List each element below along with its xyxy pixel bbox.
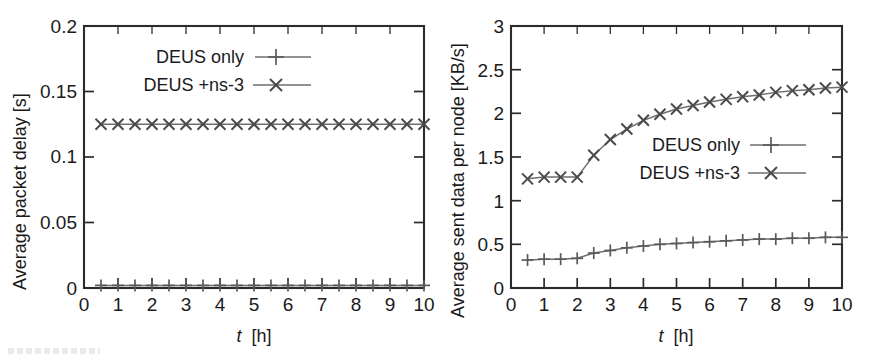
data-marker-plus-icon (704, 236, 716, 248)
left-x-tick-label-1: 1 (113, 294, 124, 315)
right-x-tick-label-8: 8 (771, 294, 782, 315)
series-deus-only (522, 231, 848, 266)
data-marker-plus-icon (180, 279, 192, 291)
right-x-tick-label-9: 9 (804, 294, 815, 315)
left-legend-label-1: DEUS +ns-3 (143, 75, 244, 95)
left-plot-frame (84, 26, 424, 288)
right-x-tick-label-3: 3 (605, 294, 616, 315)
data-marker-plus-icon (333, 279, 345, 291)
left-x-axis-title: t [h] (236, 326, 271, 346)
data-marker-plus-icon (522, 254, 534, 266)
data-marker-plus-icon (621, 242, 633, 254)
left-x-tick-label-6: 6 (283, 294, 294, 315)
right-y-tick-label-2: 1 (493, 191, 504, 212)
data-marker-plus-icon (248, 279, 260, 291)
data-marker-plus-icon (720, 235, 732, 247)
right-legend-label-0: DEUS only (652, 135, 740, 155)
data-marker-plus-icon (770, 233, 782, 245)
data-marker-plus-icon (299, 279, 311, 291)
data-marker-plus-icon (637, 240, 649, 252)
left-y-tick-label-4: 0.2 (51, 16, 77, 37)
right-legend-marker-plus-icon (763, 137, 779, 153)
data-marker-plus-icon (367, 279, 379, 291)
data-marker-plus-icon (786, 232, 798, 244)
data-marker-plus-icon (737, 234, 749, 246)
left-legend-marker-plus-icon (268, 49, 284, 65)
left-x-tickmarks (84, 26, 424, 288)
right-y-tick-label-3: 1.5 (478, 147, 504, 168)
series-deus-only (95, 279, 430, 291)
data-marker-cross-icon (688, 100, 699, 111)
data-marker-plus-icon (282, 279, 294, 291)
left-y-tick-label-0: 0 (66, 278, 77, 299)
data-marker-cross-icon (654, 109, 665, 120)
right-x-tick-label-0: 0 (506, 294, 517, 315)
data-marker-cross-icon (671, 103, 682, 114)
series-polyline (528, 237, 842, 260)
right-x-tick-label-4: 4 (638, 294, 649, 315)
right-legend: DEUS only DEUS +ns-3 (639, 135, 806, 183)
right-x-tick-label-2: 2 (572, 294, 583, 315)
left-x-tick-label-8: 8 (351, 294, 362, 315)
left-x-tick-label-4: 4 (215, 294, 226, 315)
data-marker-cross-icon (588, 150, 599, 161)
figure-two-panel-chart: Average packet delay [s] 0 0.05 0.1 0.15… (0, 0, 878, 361)
right-y-tick-label-6: 3 (493, 16, 504, 37)
data-marker-plus-icon (753, 233, 765, 245)
right-y-tick-label-5: 2.5 (478, 60, 504, 81)
data-marker-plus-icon (588, 247, 600, 259)
right-x-axis-title-symbol: t (658, 326, 664, 346)
data-marker-plus-icon (231, 279, 243, 291)
left-x-tick-label-9: 9 (385, 294, 396, 315)
data-marker-plus-icon (95, 279, 107, 291)
right-chart-svg: Average sent data per node [KB/s] 0 0.5 … (438, 0, 878, 361)
data-marker-plus-icon (163, 279, 175, 291)
left-legend-label-0: DEUS only (156, 47, 244, 67)
right-x-axis-title-unit: [h] (674, 326, 694, 346)
left-x-tick-label-3: 3 (181, 294, 192, 315)
left-y-tickmarks (84, 26, 424, 288)
left-x-axis-title-unit: [h] (252, 326, 272, 346)
data-marker-plus-icon (384, 279, 396, 291)
right-x-tick-label-6: 6 (704, 294, 715, 315)
left-x-tick-label-7: 7 (317, 294, 328, 315)
chart-panel-packet-delay: Average packet delay [s] 0 0.05 0.1 0.15… (0, 0, 440, 361)
right-x-tick-label-5: 5 (671, 294, 682, 315)
data-marker-plus-icon (265, 279, 277, 291)
scan-artifact (8, 348, 100, 354)
data-marker-plus-icon (803, 232, 815, 244)
data-marker-plus-icon (350, 279, 362, 291)
left-x-tick-label-5: 5 (249, 294, 260, 315)
right-x-axis-title: t [h] (658, 326, 693, 346)
right-y-tick-label-4: 2 (493, 103, 504, 124)
data-marker-plus-icon (671, 237, 683, 249)
data-marker-plus-icon (401, 279, 413, 291)
data-marker-plus-icon (112, 279, 124, 291)
data-marker-plus-icon (418, 279, 430, 291)
data-marker-cross-icon (638, 115, 649, 126)
data-marker-plus-icon (538, 253, 550, 265)
right-x-tick-label-10: 10 (831, 294, 852, 315)
data-marker-plus-icon (129, 279, 141, 291)
series-deus-ns-3 (96, 119, 430, 130)
data-marker-cross-icon (621, 124, 632, 135)
left-x-axis-title-symbol: t (236, 326, 242, 346)
data-marker-plus-icon (654, 238, 666, 250)
data-marker-plus-icon (316, 279, 328, 291)
left-y-tick-label-3: 0.15 (40, 81, 77, 102)
right-y-tick-label-1: 0.5 (478, 234, 504, 255)
right-y-axis-title: Average sent data per node [KB/s] (448, 43, 468, 318)
right-legend-label-1: DEUS +ns-3 (639, 163, 740, 183)
data-marker-plus-icon (146, 279, 158, 291)
left-chart-svg: Average packet delay [s] 0 0.05 0.1 0.15… (0, 0, 440, 361)
left-y-tick-label-2: 0.1 (51, 146, 77, 167)
data-marker-plus-icon (687, 237, 699, 249)
data-marker-plus-icon (819, 231, 831, 243)
right-x-tick-label-7: 7 (737, 294, 748, 315)
right-y-tick-label-0: 0 (493, 278, 504, 299)
data-marker-plus-icon (214, 279, 226, 291)
chart-panel-sent-data: Average sent data per node [KB/s] 0 0.5 … (438, 0, 878, 361)
data-marker-plus-icon (836, 231, 848, 243)
left-y-tick-label-1: 0.05 (40, 212, 77, 233)
data-marker-plus-icon (604, 244, 616, 256)
